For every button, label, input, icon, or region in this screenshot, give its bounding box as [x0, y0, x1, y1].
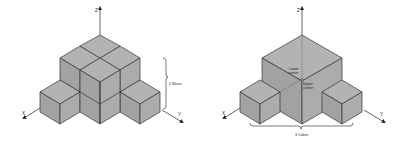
z-axis-label: Z	[95, 8, 98, 13]
slices-label: 2 Slices	[169, 82, 182, 86]
diagram-canvas: Z X Y 2 Slices Z X Y Lower corner Upper …	[0, 0, 404, 148]
x-axis	[24, 108, 40, 118]
right-figure	[224, 8, 384, 129]
x-axis-label: X	[222, 111, 225, 116]
y-axis-label: Y	[380, 112, 383, 117]
y-axis-label: Y	[178, 112, 181, 117]
slices-bracket	[163, 58, 168, 109]
cubes-label: 3 Cubes	[295, 133, 309, 137]
x-axis-label: X	[22, 111, 25, 116]
x-axis	[224, 108, 240, 118]
z-axis-label: Z	[297, 8, 300, 13]
left-figure	[24, 8, 182, 124]
upper-corner-label-2: corner	[303, 86, 314, 90]
lower-corner-label-2: corner	[288, 71, 299, 75]
